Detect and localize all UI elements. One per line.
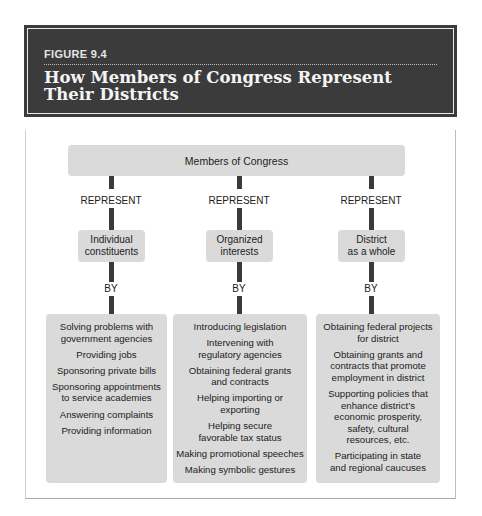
list-box-district-as-a-whole: Obtaining federal projects for district … <box>316 314 440 483</box>
list-item: Making promotional speeches <box>176 448 303 460</box>
category-label: Individual constituents <box>85 234 138 258</box>
connector-bar <box>237 262 242 282</box>
connector-bar <box>369 262 374 282</box>
connector-bar <box>369 296 374 314</box>
connector-bar <box>109 296 114 314</box>
represent-label: REPRESENT <box>66 195 156 206</box>
connector-bar <box>237 176 242 189</box>
category-box-organized-interests: Organized interests <box>206 230 273 262</box>
list-item: Obtaining federal grants and contracts <box>189 365 291 388</box>
list-item: Sponsoring appointments to service acade… <box>52 381 161 404</box>
connector-bar <box>369 208 374 230</box>
connector-bar <box>237 296 242 314</box>
category-label: District as a whole <box>348 234 396 258</box>
figure-label: FIGURE 9.4 <box>44 48 107 60</box>
root-label: Members of Congress <box>185 155 288 167</box>
list-box-organized-interests: Introducing legislation Intervening with… <box>173 314 307 483</box>
list-item: Providing jobs <box>76 349 136 361</box>
list-item: Obtaining grants and contracts that prom… <box>330 349 425 384</box>
list-item: Introducing legislation <box>194 321 287 333</box>
list-item: Providing information <box>61 425 151 437</box>
represent-label: REPRESENT <box>194 195 284 206</box>
list-item: Helping secure favorable tax status <box>198 420 281 443</box>
connector-bar <box>109 262 114 282</box>
list-item: Obtaining federal projects for district <box>323 321 432 344</box>
list-box-individual-constituents: Solving problems with government agencie… <box>46 314 167 483</box>
figure-header: FIGURE 9.4 How Members of Congress Repre… <box>24 25 457 117</box>
list-item: Supporting policies that enhance distric… <box>328 388 428 446</box>
list-item: Intervening with regulatory agencies <box>198 337 282 360</box>
represent-label: REPRESENT <box>326 195 416 206</box>
category-box-district-as-a-whole: District as a whole <box>338 230 405 262</box>
category-box-individual-constituents: Individual constituents <box>78 230 145 262</box>
figure-title: How Members of Congress Represent Their … <box>44 69 424 103</box>
dotted-divider <box>44 64 437 65</box>
list-item: Helping importing or exporting <box>197 392 283 415</box>
connector-bar <box>109 208 114 230</box>
connector-bar <box>369 176 374 189</box>
list-item: Solving problems with government agencie… <box>60 321 153 344</box>
category-label: Organized interests <box>216 234 262 258</box>
root-box-members-of-congress: Members of Congress <box>68 145 405 176</box>
list-item: Answering complaints <box>60 409 153 421</box>
list-item: Making symbolic gestures <box>185 464 295 476</box>
list-item: Sponsoring private bills <box>57 365 156 377</box>
by-label: BY <box>194 283 284 294</box>
by-label: BY <box>66 283 156 294</box>
connector-bar <box>237 208 242 230</box>
connector-bar <box>109 176 114 189</box>
by-label: BY <box>326 283 416 294</box>
list-item: Participating in state and regional cauc… <box>330 450 426 473</box>
